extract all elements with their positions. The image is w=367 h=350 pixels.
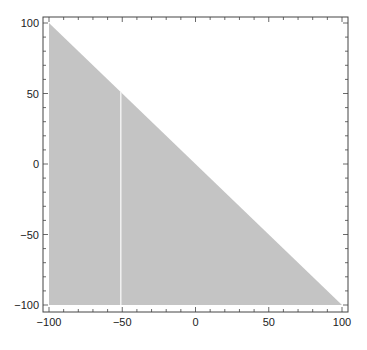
filled-region: [49, 23, 342, 305]
x-tick-label: −50: [113, 316, 132, 328]
x-tick-label: 100: [333, 316, 351, 328]
y-tick-label: 50: [27, 88, 39, 100]
x-tick-label: 0: [192, 316, 198, 328]
plot-area: [49, 23, 342, 305]
y-tick-label: 100: [21, 17, 39, 29]
x-tick-label: −100: [37, 316, 62, 328]
y-tick-label: −50: [20, 229, 39, 241]
y-axis-tick-labels: 100500−50−100: [14, 17, 39, 311]
region-plot: −100−50050100 100500−50−100: [0, 0, 367, 350]
x-tick-label: 50: [263, 316, 275, 328]
y-tick-label: 0: [33, 158, 39, 170]
x-axis-tick-labels: −100−50050100: [37, 316, 352, 328]
y-tick-label: −100: [14, 299, 39, 311]
